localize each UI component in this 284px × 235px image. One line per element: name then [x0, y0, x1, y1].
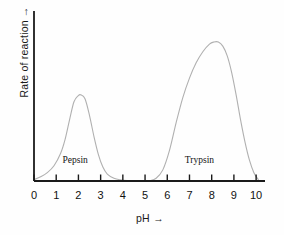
x-tick-label-10: 10 [244, 189, 268, 201]
x-tick-label-6: 6 [155, 189, 179, 201]
x-tick-label-1: 1 [44, 189, 68, 201]
curve-pepsin [34, 94, 145, 181]
chart-figure: Rate of reaction → 012345678910 Pepsin T… [0, 0, 284, 235]
x-tick-label-2: 2 [66, 189, 90, 201]
x-axis-title: pH → [34, 212, 266, 224]
x-tick-label-9: 9 [222, 189, 246, 201]
axis-ticks [34, 175, 256, 182]
x-tick-label-3: 3 [89, 189, 113, 201]
x-tick-label-5: 5 [133, 189, 157, 201]
pepsin-curve-label: Pepsin [63, 155, 88, 165]
x-tick-label-4: 4 [111, 189, 135, 201]
trypsin-curve-label: Trypsin [185, 155, 214, 165]
x-tick-label-8: 8 [200, 189, 224, 201]
x-tick-label-7: 7 [177, 189, 201, 201]
x-tick-label-0: 0 [22, 189, 46, 201]
